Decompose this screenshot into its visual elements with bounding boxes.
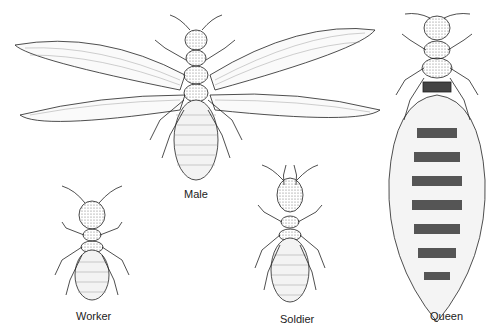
- queen-termite: [389, 14, 485, 323]
- worker-label: Worker: [76, 310, 111, 322]
- termite-castes-illustration: [0, 0, 494, 333]
- worker-termite: [55, 186, 129, 300]
- male-label: Male: [184, 188, 208, 200]
- soldier-label: Soldier: [280, 313, 314, 325]
- queen-label: Queen: [430, 310, 463, 322]
- soldier-termite: [255, 165, 325, 302]
- male-termite: [15, 15, 380, 180]
